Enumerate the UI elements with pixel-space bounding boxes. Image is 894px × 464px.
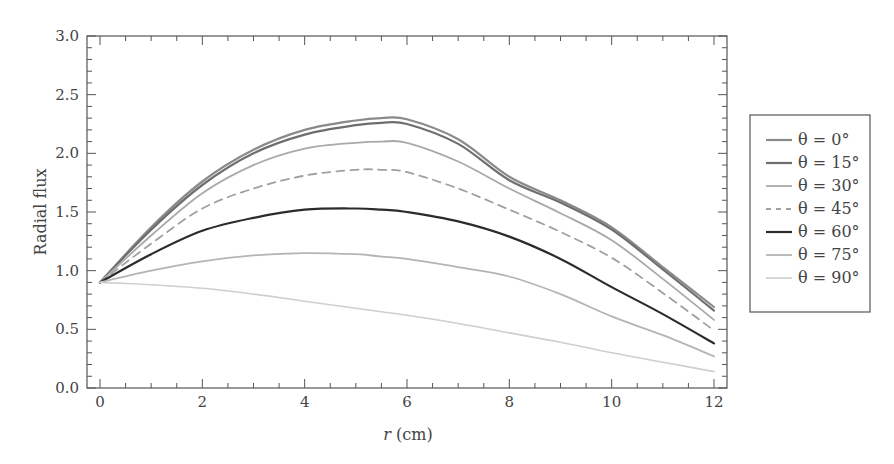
y-tick-label: 3.0 <box>55 27 79 45</box>
y-tick-label: 1.5 <box>55 203 79 221</box>
x-tick-label: 0 <box>95 393 105 411</box>
radial-flux-chart: 0.00.51.01.52.02.53.0 024681012 Radial f… <box>0 0 894 464</box>
series-line-theta-75 <box>100 253 714 356</box>
y-tick-label: 1.0 <box>55 262 79 280</box>
x-tick-label: 6 <box>402 393 412 411</box>
legend-label: θ = 90° <box>798 268 860 287</box>
x-tick-label: 4 <box>300 393 310 411</box>
x-axis: 024681012 <box>95 36 723 411</box>
legend-label: θ = 60° <box>798 222 860 241</box>
x-tick-label: 2 <box>198 393 208 411</box>
legend-label: θ = 0° <box>798 130 849 149</box>
x-axis-label-unit: (cm) <box>391 425 433 444</box>
y-axis: 0.00.51.01.52.02.53.0 <box>55 27 727 397</box>
legend-label: θ = 75° <box>798 245 860 264</box>
y-tick-label: 0.5 <box>55 320 79 338</box>
x-axis-label: r (cm) <box>383 425 432 444</box>
legend-label: θ = 30° <box>798 176 860 195</box>
y-tick-label: 2.0 <box>55 144 79 162</box>
x-tick-label: 12 <box>704 393 723 411</box>
legend-label: θ = 45° <box>798 199 860 218</box>
series-line-theta-90 <box>100 282 714 371</box>
y-tick-label: 0.0 <box>55 379 79 397</box>
series-line-theta-60 <box>100 208 714 343</box>
x-tick-label: 8 <box>505 393 515 411</box>
y-axis-label: Radial flux <box>31 168 50 255</box>
y-tick-label: 2.5 <box>55 86 79 104</box>
series-line-theta-15 <box>100 122 714 311</box>
legend-label: θ = 15° <box>798 153 860 172</box>
series-layer <box>100 117 714 371</box>
legend: θ = 0°θ = 15°θ = 30°θ = 45°θ = 60°θ = 75… <box>750 115 870 312</box>
x-tick-label: 10 <box>602 393 621 411</box>
